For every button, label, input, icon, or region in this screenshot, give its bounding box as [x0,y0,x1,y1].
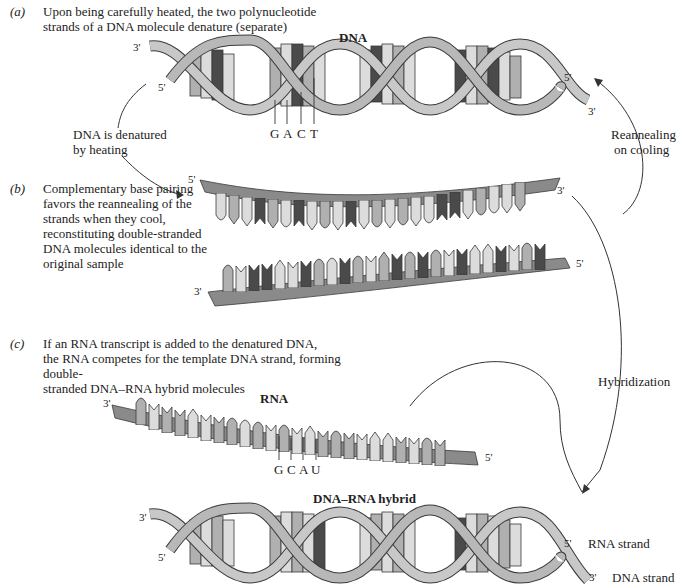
separated-strand-bottom [208,243,570,306]
panel-c-caption-line-3: stranded DNA–RNA hybrid molecules [43,381,370,396]
hybrid-left-bottom-end: 5' [158,550,165,565]
panel-a-tag: (a) [10,4,25,19]
panel-b-caption-line-6: original sample [43,256,210,271]
dna-rna-hybrid-helix [150,508,588,580]
dna-left-top-end: 3' [133,40,140,55]
reanneal-arrowhead [594,78,603,87]
denature-label-line-2: by heating [73,142,128,157]
dna-base-g: G [270,126,279,141]
dna-label: DNA [339,30,367,45]
dna-base-c: C [297,126,306,141]
dna-left-bottom-end: 5' [158,80,165,95]
panel-a-caption: (a) Upon being carefully heated, the two… [10,4,340,34]
bottom-strand-right-end: 5' [576,256,583,271]
dna-base-a: A [283,126,292,141]
panel-c-caption-line-1: If an RNA transcript is added to the den… [43,336,370,351]
rna-label: RNA [260,391,288,406]
rna-right-end: 5' [485,450,492,465]
top-strand-right-end: 3' [557,183,564,198]
panel-b-caption: (b) Complementary base pairing favors th… [10,181,210,271]
bottom-strand-left-end: 3' [194,284,201,299]
rna-strand-label: RNA strand [588,536,650,551]
rna-base-a: A [299,462,308,477]
separated-strand-top [200,178,560,230]
hybrid-left-top-end: 3' [139,510,146,525]
rna-left-end: 3' [103,396,110,411]
dna-base-t: T [310,126,318,141]
rna-strand [112,398,478,466]
rna-base-g: G [274,462,283,477]
panel-c-caption-line-2: the RNA competes for the template DNA st… [43,351,370,381]
hybrid-label: DNA–RNA hybrid [313,491,416,506]
denature-label-line-1: DNA is denatured [73,127,167,142]
hybridization-arrow [572,196,621,492]
panel-b-caption-line-4: reconstituting double-stranded [43,226,210,241]
dna-strand-label: DNA strand [612,570,674,585]
panel-a-caption-line-1: Upon being carefully heated, the two pol… [43,4,340,19]
hybrid-right-bottom-end: 3' [589,570,596,585]
panel-b-caption-line-1: Complementary base pairing [43,181,210,196]
hybrid-right-top-end: 5' [564,536,571,551]
rna-base-c: C [287,462,296,477]
panel-b-caption-line-5: DNA molecules identical to the [43,241,210,256]
dna-double-helix-top [150,40,588,124]
panel-b-caption-line-2: favors the reannealing of the [43,196,210,211]
rna-base-u: U [311,462,320,477]
panel-b-caption-line-3: strands when they cool, [43,211,210,226]
rna-to-hybrid-arrow [410,362,582,492]
panel-c-tag: (c) [10,336,24,351]
dna-right-top-end: 5' [564,70,571,85]
panel-a-caption-line-2: strands of a DNA molecule denature (sepa… [43,19,340,34]
denature-arrow [118,84,146,128]
hybridization-arrowhead [582,484,590,494]
hybridization-label: Hybridization [598,374,670,389]
dna-right-bottom-end: 3' [588,104,595,119]
panel-c-caption: (c) If an RNA transcript is added to the… [10,336,370,396]
reanneal-label-line-2: on cooling [614,142,669,157]
panel-b-tag: (b) [10,181,25,196]
top-strand-left-end: 5' [188,172,195,187]
reanneal-label-line-1: Reannealing [611,127,676,142]
